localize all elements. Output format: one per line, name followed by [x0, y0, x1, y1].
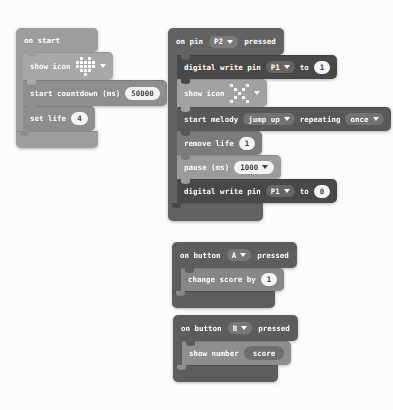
on-button-label: on button — [181, 324, 222, 333]
pin-dropdown[interactable]: P2 — [209, 36, 238, 48]
dropdown-arrow-icon — [284, 117, 290, 121]
on-pin-label: on pin — [176, 37, 203, 46]
change-score-value-input[interactable]: 1 — [261, 273, 278, 286]
dropdown-arrow-icon — [241, 326, 247, 330]
on-start-body: show icon start countdown (ms) 50000 set… — [16, 52, 167, 131]
countdown-value-input[interactable]: 50000 — [125, 87, 160, 100]
heart-icon — [76, 57, 95, 76]
score-variable-pill[interactable]: score — [244, 346, 285, 360]
repeating-label: repeating — [300, 115, 341, 124]
pin-dropdown[interactable]: P1 — [266, 61, 295, 73]
write-value: 1 — [320, 63, 325, 72]
on-button-label: on button — [180, 251, 221, 260]
pin-dropdown[interactable]: P1 — [266, 185, 295, 197]
digital-write-pin-block-1[interactable]: digital write pin P1 to 1 — [177, 55, 337, 79]
show-icon-block[interactable]: show icon — [23, 52, 113, 80]
on-pin-body: digital write pin P1 to 1 show icon star… — [168, 55, 391, 203]
write-value-input[interactable]: 1 — [314, 61, 331, 74]
countdown-value: 50000 — [131, 89, 154, 98]
on-button-a-foot[interactable] — [172, 291, 275, 308]
on-pin-hat[interactable]: on pin P2 pressed — [168, 28, 284, 55]
on-button-b-hat[interactable]: on button B pressed — [173, 315, 298, 341]
dropdown-arrow-icon — [227, 40, 233, 44]
pin-dropdown-value: P2 — [214, 37, 223, 46]
change-score-label: change score by — [188, 275, 256, 284]
set-life-label: set life — [30, 114, 66, 123]
on-button-a-body: change score by 1 — [172, 268, 284, 291]
set-life-value: 4 — [77, 114, 82, 123]
pin-dropdown-value: P1 — [271, 187, 280, 196]
on-pin-stack: on pin P2 pressed digital write pin P1 t… — [168, 28, 391, 221]
on-button-b-body: show number score — [173, 341, 291, 365]
digital-write-label: digital write pin — [184, 63, 261, 72]
pin-dropdown-value: P1 — [271, 63, 280, 72]
pause-block[interactable]: pause (ms) 1000 — [177, 155, 281, 179]
button-dropdown[interactable]: B — [228, 322, 253, 334]
pressed-label: pressed — [244, 37, 276, 46]
remove-life-value-input[interactable]: 1 — [239, 137, 256, 150]
start-melody-block[interactable]: start melody jump up repeating once — [177, 107, 391, 131]
show-number-block[interactable]: show number score — [182, 341, 291, 365]
change-score-value: 1 — [267, 275, 272, 284]
on-start-foot[interactable] — [16, 131, 98, 148]
repeat-dropdown-value: once — [350, 115, 368, 124]
dropdown-arrow-icon — [284, 65, 290, 69]
pause-value: 1000 — [240, 163, 258, 172]
start-countdown-label: start countdown (ms) — [30, 89, 120, 98]
on-start-stack: on start show icon start countdown (ms) … — [16, 28, 167, 148]
button-dropdown-value: B — [233, 324, 238, 333]
start-melody-label: start melody — [184, 115, 238, 124]
on-button-a-hat[interactable]: on button A pressed — [172, 242, 297, 268]
show-number-label: show number — [189, 349, 239, 358]
dropdown-arrow-icon[interactable] — [100, 64, 106, 68]
repeat-dropdown[interactable]: once — [345, 113, 383, 125]
dropdown-arrow-icon — [284, 189, 290, 193]
start-countdown-block[interactable]: start countdown (ms) 50000 — [23, 80, 167, 106]
dropdown-arrow-icon — [240, 253, 246, 257]
show-icon-block-2[interactable]: show icon — [177, 79, 267, 107]
on-button-a-stack: on button A pressed change score by 1 — [172, 242, 297, 308]
dropdown-arrow-icon[interactable] — [254, 91, 260, 95]
digital-write-label: digital write pin — [184, 187, 261, 196]
no-icon — [230, 84, 249, 103]
set-life-block[interactable]: set life 4 — [23, 106, 95, 131]
on-start-hat[interactable]: on start — [16, 28, 98, 52]
pressed-label: pressed — [258, 324, 290, 333]
set-life-value-input[interactable]: 4 — [71, 112, 88, 125]
score-variable-label: score — [253, 349, 276, 358]
to-label: to — [300, 63, 309, 72]
on-pin-foot[interactable] — [168, 203, 263, 221]
on-button-b-foot[interactable] — [173, 365, 278, 382]
write-value-input[interactable]: 0 — [314, 185, 331, 198]
remove-life-value: 1 — [245, 139, 250, 148]
write-value: 0 — [320, 187, 325, 196]
remove-life-label: remove life — [184, 139, 234, 148]
change-score-block[interactable]: change score by 1 — [181, 268, 284, 291]
to-label: to — [300, 187, 309, 196]
pause-label: pause (ms) — [184, 163, 229, 172]
melody-dropdown[interactable]: jump up — [243, 113, 295, 125]
dropdown-arrow-icon — [262, 165, 268, 169]
on-button-b-stack: on button B pressed show number score — [173, 315, 298, 382]
digital-write-pin-block-2[interactable]: digital write pin P1 to 0 — [177, 179, 337, 203]
remove-life-block[interactable]: remove life 1 — [177, 131, 262, 155]
melody-dropdown-value: jump up — [248, 115, 280, 124]
dropdown-arrow-icon — [373, 117, 379, 121]
button-dropdown[interactable]: A — [227, 249, 252, 261]
button-dropdown-value: A — [232, 251, 237, 260]
show-icon-label: show icon — [30, 62, 71, 71]
pause-value-dropdown[interactable]: 1000 — [234, 161, 274, 174]
pressed-label: pressed — [257, 251, 289, 260]
show-icon-label: show icon — [184, 89, 225, 98]
on-start-label: on start — [24, 36, 60, 45]
